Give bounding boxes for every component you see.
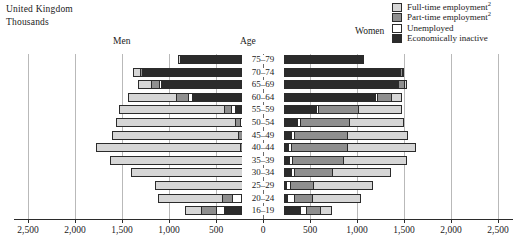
pyramid-row: 25–29 [14, 181, 512, 190]
pyramid-row: 75–79 [14, 55, 512, 64]
legend-label-full_time: Full-time employment2 [407, 3, 491, 12]
age-band-label: 16–19 [14, 206, 512, 215]
plot-area: 75–7970–7465–6960–6455–5950–5445–4940–44… [14, 54, 512, 219]
axis-tick-label: 2,000 [64, 225, 85, 235]
axis-tick [310, 219, 311, 223]
legend-item-inactive: Economically inactive [392, 34, 526, 44]
pyramid-row: 16–19 [14, 206, 512, 215]
pyramid-row: 60–64 [14, 93, 512, 102]
units-label: Thousands [6, 17, 49, 27]
legend-swatch-inactive [392, 34, 402, 43]
pyramid-row: 30–34 [14, 168, 512, 177]
axis-tick-label: 1,500 [393, 225, 414, 235]
axis-tick [263, 219, 264, 223]
axis-tick [357, 219, 358, 223]
legend-label-part_time: Part-time employment2 [407, 13, 491, 22]
age-band-label: 50–54 [14, 118, 512, 127]
age-band-label: 40–44 [14, 143, 512, 152]
age-band-label: 75–79 [14, 55, 512, 64]
axis-tick [404, 219, 405, 223]
chart-title: United Kingdom [6, 4, 73, 14]
axis-tick [28, 219, 29, 223]
axis-tick-label: 1,500 [111, 225, 132, 235]
pyramid-row: 45–49 [14, 131, 512, 140]
population-pyramid-chart: United Kingdom Thousands Men Age Women F… [0, 0, 526, 245]
legend-item-part_time: Part-time employment2 [392, 13, 526, 23]
age-band-label: 25–29 [14, 181, 512, 190]
age-band-label: 35–39 [14, 156, 512, 165]
axis-tick-label: 500 [303, 225, 317, 235]
axis-tick-label: 500 [209, 225, 223, 235]
legend-swatch-part_time [392, 13, 402, 22]
legend-item-unemployed: Unemployed [392, 23, 526, 33]
legend-label-unemployed: Unemployed [407, 24, 454, 33]
age-band-label: 65–69 [14, 80, 512, 89]
men-column-header: Men [113, 36, 130, 46]
age-column-header: Age [240, 36, 256, 46]
women-column-header: Women [355, 26, 384, 36]
age-band-label: 45–49 [14, 131, 512, 140]
age-band-label: 30–34 [14, 168, 512, 177]
pyramid-row: 35–39 [14, 156, 512, 165]
axis-tick-label: 2,000 [440, 225, 461, 235]
age-band-label: 70–74 [14, 68, 512, 77]
legend-swatch-unemployed [392, 24, 402, 33]
age-band-label: 55–59 [14, 105, 512, 114]
axis-tick-label: 2,500 [487, 225, 508, 235]
axis-tick [498, 219, 499, 223]
pyramid-row: 40–44 [14, 143, 512, 152]
axis-tick [451, 219, 452, 223]
axis-tick-label: 1,000 [158, 225, 179, 235]
age-band-label: 20–24 [14, 194, 512, 203]
age-band-label: 60–64 [14, 93, 512, 102]
axis-tick [122, 219, 123, 223]
pyramid-row: 50–54 [14, 118, 512, 127]
axis-tick-label: 0 [261, 225, 266, 235]
pyramid-row: 20–24 [14, 194, 512, 203]
pyramid-row: 70–74 [14, 68, 512, 77]
axis-tick-label: 1,000 [346, 225, 367, 235]
axis-tick [169, 219, 170, 223]
legend-label-inactive: Economically inactive [407, 34, 488, 43]
pyramid-row: 55–59 [14, 105, 512, 114]
axis-tick [216, 219, 217, 223]
legend-swatch-full_time [392, 3, 402, 12]
axis-tick [75, 219, 76, 223]
chart-legend: Full-time employment2Part-time employmen… [392, 2, 526, 44]
axis-tick-label: 2,500 [17, 225, 38, 235]
pyramid-row: 65–69 [14, 80, 512, 89]
legend-item-full_time: Full-time employment2 [392, 2, 526, 12]
